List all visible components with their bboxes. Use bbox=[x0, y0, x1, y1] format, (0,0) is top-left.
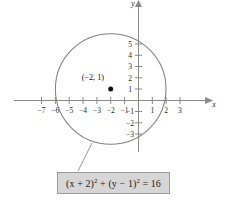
center-point-marker bbox=[108, 87, 113, 92]
x-tick-label: −2 bbox=[107, 106, 115, 115]
equation-text: (x + 2)2 + (y − 1)2 = 16 bbox=[66, 178, 161, 189]
y-tick-label: 5 bbox=[128, 40, 132, 49]
y-axis-label: y bbox=[130, 0, 135, 8]
equation-term1-base: x + 2 bbox=[69, 178, 90, 189]
y-tick-label: 1 bbox=[128, 85, 132, 94]
x-tick-label: −5 bbox=[65, 106, 73, 115]
callout-leader-line bbox=[78, 143, 92, 171]
x-tick-label: −4 bbox=[79, 106, 87, 115]
x-tick-label: −3 bbox=[93, 106, 101, 115]
x-tick-label: 3 bbox=[178, 106, 182, 115]
x-tick-label: 2 bbox=[164, 106, 168, 115]
equation-term2-base: y − 1 bbox=[112, 178, 133, 189]
x-axis-label: x bbox=[211, 100, 216, 109]
x-tick-label: 1 bbox=[150, 106, 154, 115]
y-tick-label: −2 bbox=[126, 119, 134, 128]
y-tick-label: 3 bbox=[128, 62, 132, 71]
x-tick-label: −6 bbox=[51, 106, 59, 115]
equation-callout-box: (x + 2)2 + (y − 1)2 = 16 bbox=[57, 172, 170, 194]
circle-graph-figure: −7 −6 −5 −4 −3 −2 −1 1 2 3 5 4 3 2 1 −1 … bbox=[0, 0, 227, 202]
y-axis-arrow-icon bbox=[135, 0, 142, 7]
center-point-label: (−2, 1) bbox=[82, 73, 105, 82]
equation-plus-sign: + bbox=[97, 178, 108, 189]
y-tick-label: −1 bbox=[126, 107, 134, 116]
y-tick-label: −3 bbox=[126, 130, 134, 139]
equation-equals-value: = 16 bbox=[140, 178, 161, 189]
y-tick-label: 4 bbox=[128, 51, 132, 60]
x-tick-label: −7 bbox=[37, 106, 45, 115]
y-tick-label: 2 bbox=[128, 74, 132, 83]
